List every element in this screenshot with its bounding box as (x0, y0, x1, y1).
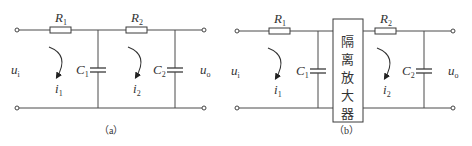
label-c1: C1 (76, 62, 89, 79)
label-output-voltage: uo (448, 63, 459, 80)
figure-b: 隔 离 放 大 器 R1 R2 C1 C2 i1 i2 ui uo （b） (231, 11, 459, 136)
current-arrow-i1 (49, 47, 62, 77)
circuit-diagram: R1 R2 C1 C2 i1 i2 ui uo （a） 隔 离 放 大 器 (0, 0, 472, 146)
input-terminal-bottom (235, 106, 239, 110)
label-r2: R2 (379, 11, 392, 28)
amplifier-char: 大 (341, 88, 354, 103)
label-i2: i2 (133, 81, 141, 98)
label-i1: i1 (274, 82, 282, 99)
input-terminal-top (235, 29, 239, 33)
amplifier-char: 离 (341, 52, 354, 67)
figure-a: R1 R2 C1 C2 i1 i2 ui uo （a） (11, 10, 211, 136)
current-arrow-i1 (268, 48, 281, 78)
label-i1: i1 (55, 81, 63, 98)
output-terminal-top (451, 29, 455, 33)
current-arrow-i2 (128, 47, 141, 77)
current-arrow-i2 (377, 48, 390, 78)
amplifier-char: 器 (341, 106, 354, 121)
output-terminal-bottom (451, 106, 455, 110)
caption-b: （b） (334, 125, 359, 136)
label-i2: i2 (383, 82, 391, 99)
label-c2: C2 (153, 62, 166, 79)
output-terminal-top (202, 28, 206, 32)
label-input-voltage: ui (231, 63, 241, 80)
label-r1: R1 (54, 10, 67, 27)
label-r1: R1 (273, 11, 286, 28)
amplifier-char: 隔 (341, 34, 354, 49)
label-input-voltage: ui (11, 62, 21, 79)
label-c2: C2 (402, 63, 415, 80)
label-r2: R2 (130, 10, 143, 27)
caption-a: （a） (99, 125, 123, 136)
resistor-r2 (375, 28, 396, 34)
resistor-r1 (269, 28, 290, 34)
resistor-r1 (50, 27, 71, 33)
resistor-r2 (126, 27, 147, 33)
label-c1: C1 (296, 63, 309, 80)
label-output-voltage: uo (200, 62, 211, 79)
amplifier-char: 放 (341, 70, 354, 85)
input-terminal-top (15, 28, 19, 32)
input-terminal-bottom (15, 106, 19, 110)
output-terminal-bottom (202, 106, 206, 110)
